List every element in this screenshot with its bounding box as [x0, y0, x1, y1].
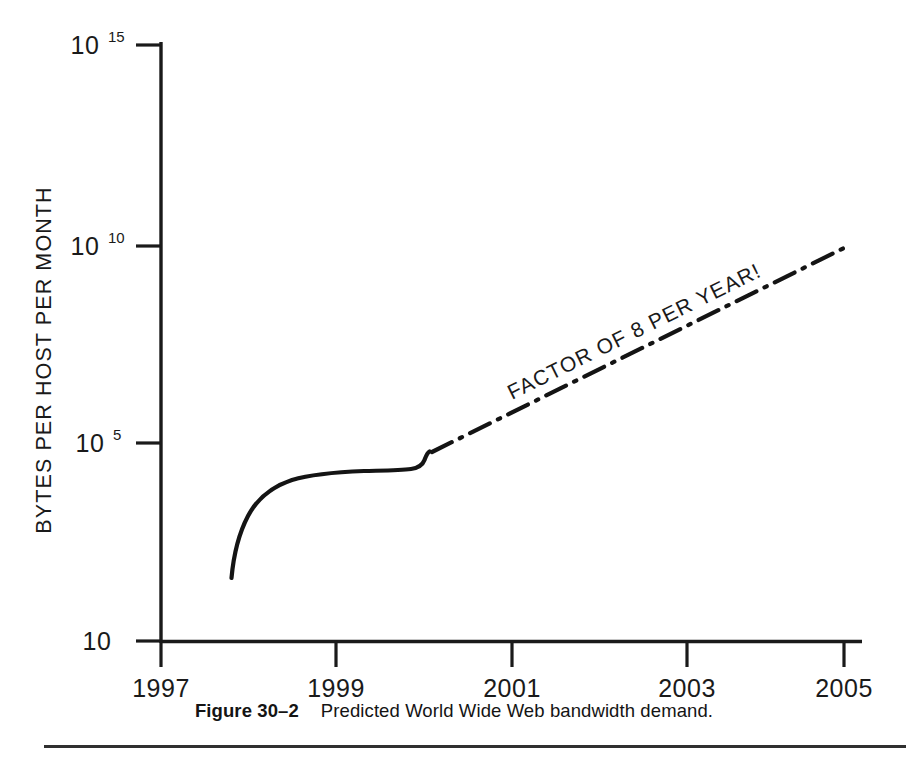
page-divider-rule — [44, 745, 906, 748]
figure-caption-label: Figure 30–2 — [195, 700, 299, 721]
y-tick-label-1e15: 10 15 — [71, 28, 125, 59]
y-tick-label-1e10-base: 10 — [71, 232, 100, 260]
figure-container: 10 15 10 10 10 5 10 1997 1999 2001 2003 … — [0, 0, 908, 778]
x-tick-label-2001: 2001 — [483, 674, 541, 702]
x-tick-label-1997: 1997 — [132, 674, 190, 702]
y-tick-label-1e5-base: 10 — [76, 429, 105, 457]
x-tick-label-1999: 1999 — [307, 674, 365, 702]
y-axis-title: BYTES PER HOST PER MONTH — [32, 186, 56, 533]
y-tick-label-10: 10 — [83, 627, 112, 655]
x-tick-label-2003: 2003 — [658, 674, 716, 702]
figure-caption-text: Predicted World Wide Web bandwidth deman… — [321, 700, 713, 721]
y-tick-label-1e5-exp: 5 — [113, 426, 121, 443]
series-line-prediction — [432, 248, 845, 453]
annotation-factor-of-8: FACTOR OF 8 PER YEAR! — [504, 258, 765, 403]
y-tick-label-10-base: 10 — [83, 627, 112, 655]
series-line-historical — [232, 452, 430, 579]
y-tick-label-1e10: 10 10 — [71, 229, 125, 260]
y-tick-label-1e5: 10 5 — [76, 426, 122, 457]
y-tick-label-1e15-base: 10 — [71, 31, 100, 59]
y-tick-label-1e15-exp: 15 — [108, 28, 125, 45]
chart-plot: 10 15 10 10 10 5 10 1997 1999 2001 2003 … — [0, 0, 908, 778]
x-tick-label-2005: 2005 — [815, 674, 873, 702]
y-tick-label-1e10-exp: 10 — [108, 229, 125, 246]
figure-caption: Figure 30–2Predicted World Wide Web band… — [0, 700, 908, 722]
